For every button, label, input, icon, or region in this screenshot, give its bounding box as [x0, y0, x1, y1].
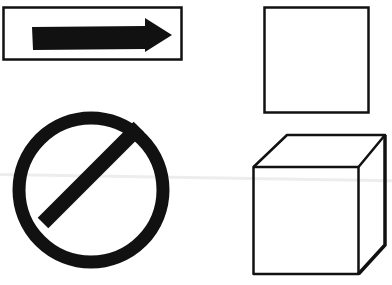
prohibition-slash: [43, 127, 139, 223]
square-outline: [265, 8, 369, 113]
square-shape: [265, 8, 369, 113]
arrow-sign: [4, 8, 182, 60]
cube-right-face: [359, 135, 386, 274]
prohibition-sign: [19, 118, 163, 262]
cube-top-face: [254, 135, 386, 167]
cube-front-face: [254, 167, 359, 274]
prohibition-circle-icon: [19, 118, 163, 262]
cube-shape: [254, 135, 386, 274]
diagram-canvas: [0, 0, 392, 285]
right-arrow-icon: [32, 18, 172, 52]
